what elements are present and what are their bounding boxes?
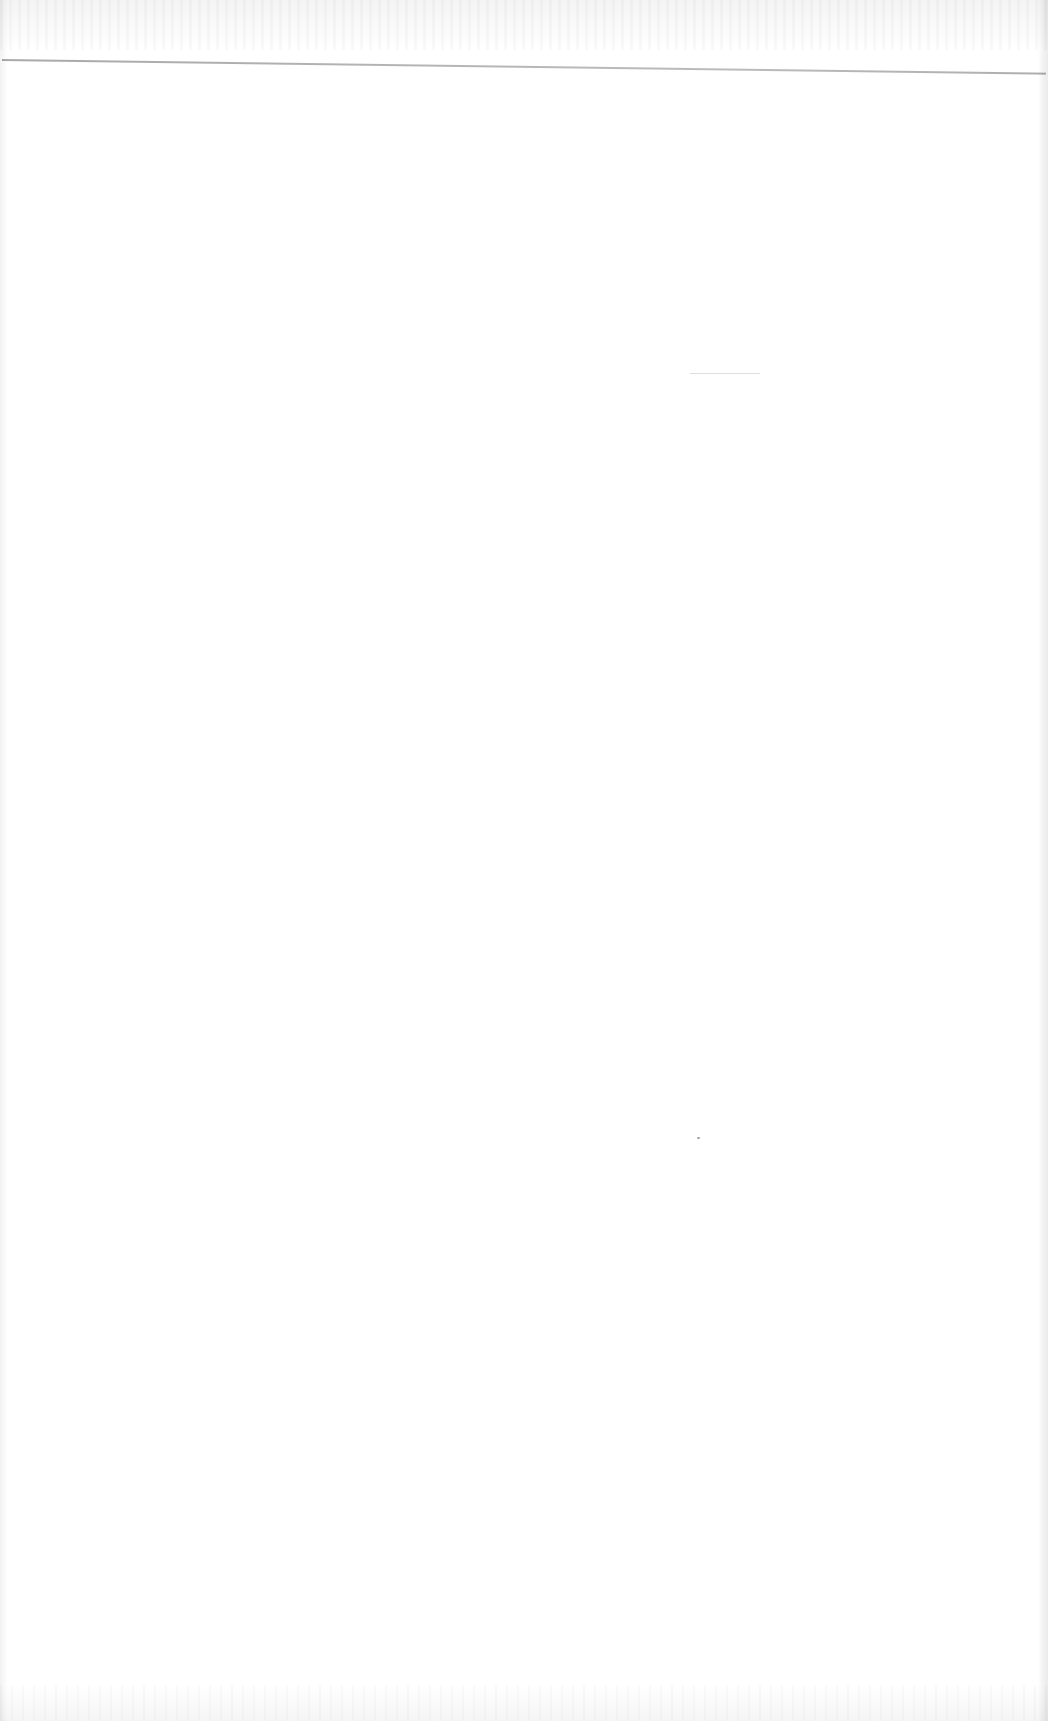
right-scan-edge bbox=[1038, 0, 1048, 1721]
footer-bleed-through bbox=[0, 1685, 1048, 1721]
header-rule bbox=[2, 59, 1046, 75]
left-scan-edge bbox=[0, 0, 8, 1721]
faint-scan-mark bbox=[690, 373, 760, 374]
scanned-page bbox=[0, 0, 1048, 1721]
scan-speck bbox=[697, 1137, 700, 1139]
header-bleed-through bbox=[0, 0, 1048, 50]
